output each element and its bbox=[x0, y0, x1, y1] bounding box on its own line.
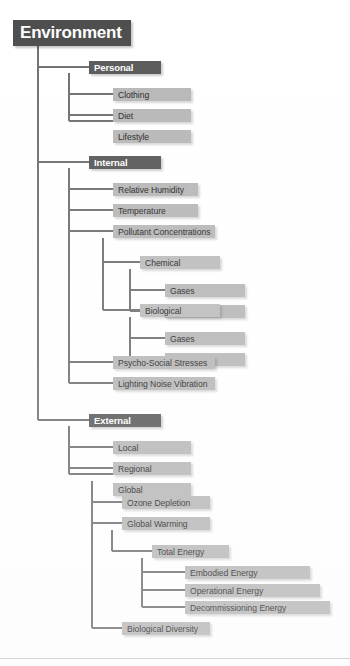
node-lifestyle[interactable]: Lifestyle bbox=[113, 130, 191, 143]
node-local[interactable]: Local bbox=[113, 441, 191, 454]
node-lighting-noise-vibration[interactable]: Lighting Noise Vibration bbox=[113, 377, 215, 390]
node-label: Biological Diversity bbox=[127, 624, 198, 634]
node-label: Global Warming bbox=[127, 519, 188, 529]
node-label: Environment bbox=[20, 23, 122, 43]
node-psycho-social-stresses[interactable]: Psycho-Social Stresses bbox=[113, 356, 215, 369]
node-label: Gases bbox=[170, 286, 195, 296]
node-internal[interactable]: Internal bbox=[89, 156, 161, 169]
node-label: Decommissioning Energy bbox=[190, 603, 286, 613]
node-embodied-energy[interactable]: Embodied Energy bbox=[185, 566, 310, 579]
node-external[interactable]: External bbox=[89, 414, 161, 427]
node-chemical[interactable]: Chemical bbox=[140, 256, 220, 269]
node-label: Psycho-Social Stresses bbox=[118, 358, 207, 368]
environment-tree-diagram: Environment Personal Clothing Diet Lifes… bbox=[0, 0, 350, 666]
node-label: Diet bbox=[118, 111, 133, 121]
node-biological[interactable]: Biological bbox=[140, 304, 220, 317]
node-global[interactable]: Global bbox=[113, 483, 191, 496]
node-label: Pollutant Concentrations bbox=[118, 227, 210, 237]
node-label: Chemical bbox=[145, 258, 180, 268]
node-temperature[interactable]: Temperature bbox=[113, 204, 198, 217]
node-personal[interactable]: Personal bbox=[89, 61, 161, 74]
node-operational-energy[interactable]: Operational Energy bbox=[185, 584, 320, 597]
node-label: Total Energy bbox=[157, 547, 204, 557]
node-clothing[interactable]: Clothing bbox=[113, 88, 191, 101]
node-label: Operational Energy bbox=[190, 586, 263, 596]
node-label: Global bbox=[118, 485, 143, 495]
node-label: Embodied Energy bbox=[190, 568, 258, 578]
node-label: Clothing bbox=[118, 90, 149, 100]
page-bottom-rule bbox=[0, 658, 350, 659]
node-environment[interactable]: Environment bbox=[13, 20, 131, 46]
node-global-warming[interactable]: Global Warming bbox=[122, 517, 210, 530]
node-label: External bbox=[94, 415, 131, 426]
node-label: Relative Humidity bbox=[118, 185, 184, 195]
node-biological-gases[interactable]: Gases bbox=[165, 332, 245, 345]
node-label: Lighting Noise Vibration bbox=[118, 379, 207, 389]
node-total-energy[interactable]: Total Energy bbox=[152, 545, 229, 558]
node-pollutant-concentrations[interactable]: Pollutant Concentrations bbox=[113, 225, 215, 238]
node-label: Gases bbox=[170, 334, 195, 344]
node-label: Personal bbox=[94, 62, 133, 73]
node-label: Ozone Depletion bbox=[127, 498, 190, 508]
node-label: Lifestyle bbox=[118, 132, 149, 142]
node-label: Temperature bbox=[118, 206, 166, 216]
node-label: Internal bbox=[94, 157, 128, 168]
node-diet[interactable]: Diet bbox=[113, 109, 191, 122]
node-biological-diversity[interactable]: Biological Diversity bbox=[122, 622, 210, 635]
node-label: Local bbox=[118, 443, 138, 453]
node-relative-humidity[interactable]: Relative Humidity bbox=[113, 183, 198, 196]
node-label: Regional bbox=[118, 464, 152, 474]
node-decommissioning-energy[interactable]: Decommissioning Energy bbox=[185, 601, 330, 614]
node-chemical-gases[interactable]: Gases bbox=[165, 284, 245, 297]
node-label: Biological bbox=[145, 306, 181, 316]
node-ozone-depletion[interactable]: Ozone Depletion bbox=[122, 496, 210, 509]
node-regional[interactable]: Regional bbox=[113, 462, 191, 475]
